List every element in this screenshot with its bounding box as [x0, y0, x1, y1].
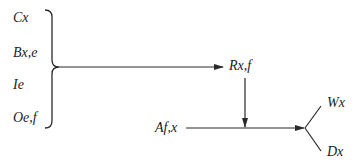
- label-bxe: Bx,e: [13, 46, 37, 60]
- label-ie: Ie: [13, 78, 24, 92]
- label-cx: Cx: [13, 11, 29, 25]
- label-oef: Oe,f: [13, 111, 37, 125]
- branch-wx: [305, 106, 321, 128]
- label-rxf: Rx,f: [229, 59, 251, 73]
- branch-dx: [305, 128, 321, 151]
- label-afx: Af,x: [155, 121, 177, 135]
- label-dx: Dx: [327, 145, 343, 159]
- flow-diagram: [0, 0, 358, 168]
- label-wx: Wx: [327, 96, 345, 110]
- curly-brace: [45, 10, 59, 128]
